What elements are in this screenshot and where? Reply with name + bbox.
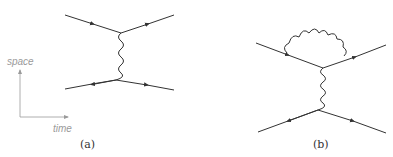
fermion-line-lower-out-tail bbox=[147, 85, 174, 90]
fermion-line-upper-out bbox=[323, 57, 355, 68]
fermion-line-upper-in-tail bbox=[288, 55, 323, 68]
fermion-line-lower-out bbox=[318, 110, 353, 121]
fermion-line-upper-in-tail bbox=[93, 24, 121, 33]
fermion-arrow-lower-left bbox=[288, 110, 318, 121]
fermion-line-upper-in bbox=[256, 43, 288, 55]
fermion-line-lower-out-tail bbox=[353, 121, 386, 133]
caption-b: (b) bbox=[313, 138, 329, 151]
spacetime-axes: space time bbox=[7, 56, 72, 134]
fermion-line-lower-in bbox=[258, 121, 288, 132]
diagram-a: (a) bbox=[65, 15, 174, 151]
photon-propagator bbox=[318, 68, 326, 110]
fermion-line-lower-in bbox=[65, 84, 92, 89]
feynman-diagrams: space time (a) (b) bbox=[0, 0, 393, 157]
fermion-line-upper-out bbox=[121, 24, 148, 33]
fermion-line-upper-in bbox=[65, 15, 93, 24]
time-axis-label: time bbox=[53, 123, 72, 134]
fermion-arrow-lower-left bbox=[92, 80, 116, 85]
photon-loop-vertex-correction bbox=[284, 29, 346, 56]
fermion-line-lower-out bbox=[116, 80, 147, 85]
fermion-line-upper-out-tail bbox=[355, 45, 386, 57]
diagram-b: (b) bbox=[256, 29, 386, 151]
caption-a: (a) bbox=[80, 138, 95, 151]
photon-propagator bbox=[116, 33, 124, 80]
space-axis-label: space bbox=[7, 56, 34, 67]
fermion-line-upper-out-tail bbox=[148, 15, 174, 24]
